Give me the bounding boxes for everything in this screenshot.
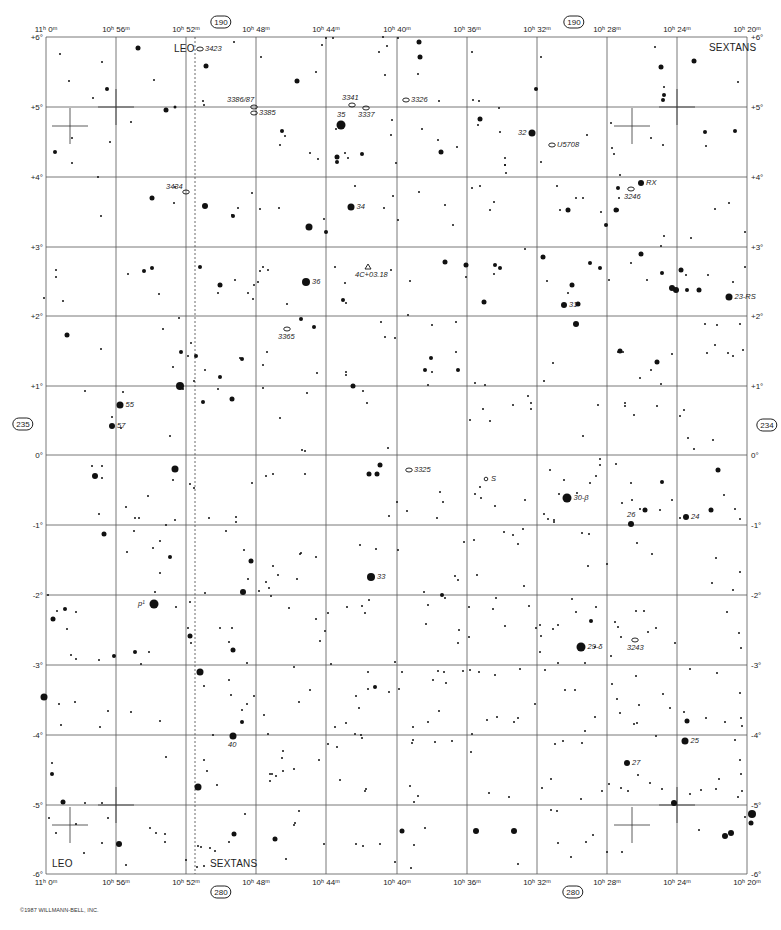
star [417,40,422,45]
star [643,610,645,612]
star [101,465,103,467]
star [554,743,556,745]
star [214,850,216,852]
star [355,695,357,697]
star [638,180,644,186]
star [594,716,596,718]
star [251,192,253,194]
star [253,695,255,697]
star [425,623,427,625]
star [534,703,536,705]
star [258,590,260,592]
star [134,517,136,519]
star [309,152,311,154]
page-ref-right[interactable]: 234 [756,419,777,432]
star [325,37,327,39]
star [716,324,718,326]
star [586,134,588,136]
star [150,196,155,201]
star [438,710,440,712]
dec-label-left: -4° [33,731,43,740]
star [616,698,618,700]
star [544,669,546,671]
star [608,783,610,785]
galaxy-marker [628,187,635,191]
star [674,642,676,644]
star [498,107,500,109]
star [158,293,160,295]
page-ref-top-right[interactable]: 190 [563,16,584,29]
star [122,391,124,393]
star [505,172,507,174]
page-ref-bottom-right[interactable]: 280 [562,886,583,899]
star [260,56,262,58]
star [56,610,58,612]
star [259,208,261,210]
star [364,612,366,614]
star [499,131,501,133]
star [434,741,436,743]
star [323,843,325,845]
star [285,858,287,860]
star [643,508,648,513]
star [230,733,237,740]
star [567,292,569,294]
star [190,342,192,344]
star [561,302,567,308]
page-ref-left[interactable]: 235 [12,418,33,431]
star [362,845,364,847]
star [734,739,736,741]
star [494,674,496,676]
star [457,642,459,644]
star [621,502,623,504]
star [107,710,109,712]
star [570,856,572,858]
star [306,224,313,231]
star [400,829,405,834]
star [294,822,296,824]
star [486,719,488,721]
star [608,279,610,281]
star [469,419,471,421]
star [715,788,717,790]
star [98,513,100,515]
star [418,191,420,193]
star [240,720,244,724]
star [739,692,741,694]
star [661,788,663,790]
star [650,137,652,139]
star [619,174,621,176]
star [478,117,483,122]
star [553,519,555,521]
star [636,722,638,724]
star [562,740,564,742]
page-ref-top[interactable]: 190 [210,16,231,29]
star [358,707,360,709]
star [344,152,346,154]
star [535,627,537,629]
star [335,160,339,164]
star [382,36,384,38]
galaxy-marker [406,468,413,472]
star-chart [0,0,781,930]
star [413,844,415,846]
star [718,778,720,780]
star-label: 23-RS [735,292,756,301]
star [271,773,273,775]
variable-marker [484,477,488,481]
star [479,185,481,187]
star [669,707,671,709]
star [48,817,50,819]
star [616,186,620,190]
star [302,278,310,286]
star [528,605,530,607]
star [473,539,475,541]
galaxy-label: 3341 [342,93,359,102]
dec-label-left: +5° [31,103,43,112]
star [240,589,246,595]
star [504,157,506,159]
page-ref-bottom[interactable]: 280 [210,886,231,899]
star [257,281,259,283]
deep-sky-objects [183,47,639,642]
star [540,635,542,637]
